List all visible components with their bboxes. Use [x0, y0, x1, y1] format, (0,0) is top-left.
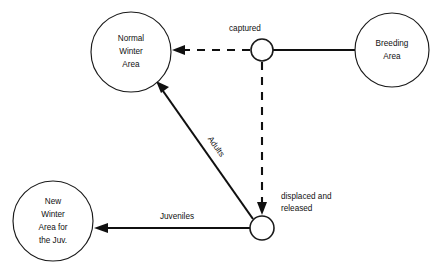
node-normal-winter-area-label-line1: Normal: [118, 34, 145, 43]
edge-captured-to-displaced: [257, 62, 267, 215]
edge-label-juveniles-text: Juveniles: [160, 212, 194, 221]
arrowhead-to-normal-winter-icon: [172, 45, 185, 55]
node-breeding-area-label-line2: Area: [383, 52, 401, 61]
edge-displaced-to-normal-winter: [156, 81, 253, 219]
edge-displaced-to-new-winter: [94, 223, 250, 233]
node-displaced-released-label-line1: displaced and: [281, 192, 332, 201]
edge-displaced-to-normal-winter-line: [163, 91, 253, 219]
node-new-winter-area-juv-label-line2: Winter: [41, 210, 65, 219]
diagram-canvas: Normal Winter Area Breeding Area New Win…: [0, 0, 439, 272]
arrowhead-juveniles-icon: [94, 223, 108, 233]
node-captured-label: captured: [229, 24, 261, 33]
node-breeding-area[interactable]: Breeding Area: [355, 13, 429, 87]
node-normal-winter-area-label-line3: Area: [122, 60, 140, 69]
arrowhead-to-displaced-icon: [257, 202, 267, 215]
node-breeding-area-circle[interactable]: [355, 13, 429, 87]
node-new-winter-area-juv-label-line3: Area for: [38, 223, 67, 232]
node-normal-winter-area-label-line2: Winter: [119, 47, 143, 56]
node-captured[interactable]: captured: [229, 24, 273, 61]
node-displaced-released-label-line2: released: [281, 204, 313, 213]
node-captured-circle[interactable]: [251, 39, 273, 61]
diagram-svg: Normal Winter Area Breeding Area New Win…: [0, 0, 439, 272]
node-normal-winter-area[interactable]: Normal Winter Area: [91, 12, 171, 92]
node-new-winter-area-juv-circle[interactable]: [13, 181, 93, 261]
node-new-winter-area-juv[interactable]: New Winter Area for the Juv.: [13, 181, 93, 261]
node-new-winter-area-juv-label-line4: the Juv.: [39, 236, 67, 245]
edge-label-juveniles: Juveniles: [160, 212, 194, 221]
node-displaced-released-circle[interactable]: [250, 216, 274, 240]
arrowhead-adults-icon: [156, 81, 169, 93]
node-new-winter-area-juv-label-line1: New: [45, 197, 61, 206]
node-breeding-area-label-line1: Breeding: [376, 39, 409, 48]
edge-captured-to-normal-winter: [172, 45, 250, 55]
